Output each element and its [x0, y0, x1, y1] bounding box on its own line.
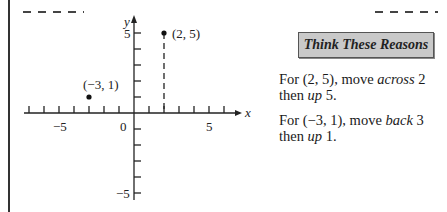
origin-label: 0 — [120, 119, 127, 134]
x-tick-label-5: 5 — [206, 119, 213, 134]
point-neg3-1 — [86, 94, 91, 99]
box-title: Think These Reasons — [304, 37, 428, 53]
x-axis-arrow-icon — [235, 110, 242, 116]
think-these-reasons-box: Think These Reasons — [298, 32, 434, 58]
y-tick-label-5: 5 — [124, 26, 131, 41]
point-label-2-5: (2, 5) — [172, 26, 200, 41]
reason-paragraph-2: For (−3, 1), move back 3 then up 1. — [279, 112, 444, 144]
y-tick-label-minus5: −5 — [116, 186, 130, 201]
point-2-5 — [161, 30, 166, 35]
reason-paragraph-1: For (2, 5), move across 2 then up 5. — [279, 71, 444, 103]
y-axis-arrow-icon — [131, 15, 137, 23]
x-axis-label: x — [244, 105, 251, 120]
point-label-neg3-1: (−3, 1) — [83, 77, 119, 92]
x-tick-label-minus5: −5 — [53, 119, 67, 134]
